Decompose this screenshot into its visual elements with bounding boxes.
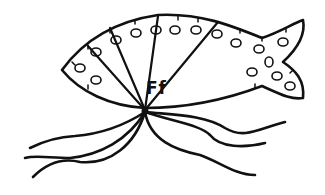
fish-spots <box>75 26 295 90</box>
convergence-point <box>142 108 149 115</box>
tendril-lines <box>25 112 285 177</box>
fish-body-outline <box>62 15 304 108</box>
letter-label: Ff <box>146 80 167 97</box>
